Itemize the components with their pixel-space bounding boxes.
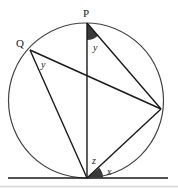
circle	[9, 23, 164, 178]
angle-label-y-P: y	[92, 42, 98, 53]
angle-label-x: x	[106, 166, 112, 177]
angle-label-y-Q: y	[40, 59, 46, 70]
circle-theorem-diagram: P Q y y z x	[0, 0, 178, 188]
point-label-Q: Q	[16, 37, 24, 49]
chord-QR	[30, 50, 161, 109]
angle-label-z: z	[91, 155, 96, 166]
chord-QT	[30, 50, 87, 178]
chord-PR	[87, 23, 161, 109]
point-label-P: P	[83, 7, 89, 19]
